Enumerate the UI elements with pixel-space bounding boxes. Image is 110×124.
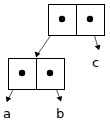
- diagram-canvas: a b c: [0, 0, 110, 124]
- bottom-cons-cell[interactable]: [9, 59, 65, 90]
- top-cell-car-dot[interactable]: [59, 16, 65, 22]
- variable-label-b: b: [56, 106, 64, 121]
- variable-label-c: c: [92, 55, 99, 70]
- box-and-pointer-diagram: a b c: [0, 0, 110, 124]
- top-cons-cell[interactable]: [49, 5, 105, 36]
- arrow-head-top-cdr: [95, 45, 101, 50]
- bottom-cell-cdr-dot[interactable]: [47, 70, 53, 76]
- bottom-cell-car-dot[interactable]: [19, 70, 25, 76]
- top-cell-cdr-dot[interactable]: [87, 16, 93, 22]
- arrow-head-bottom-car: [6, 96, 12, 102]
- variable-label-a: a: [3, 106, 11, 121]
